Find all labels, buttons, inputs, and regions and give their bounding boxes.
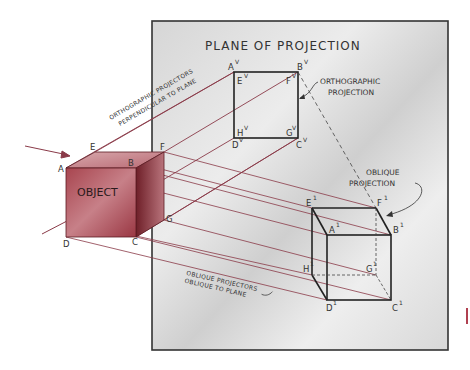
svg-text:F: F: [160, 142, 165, 152]
edge-mark: [466, 308, 468, 324]
svg-text:PROJECTION: PROJECTION: [349, 179, 395, 188]
svg-text:B: B: [128, 158, 134, 168]
svg-text:A: A: [329, 225, 335, 235]
svg-text:G: G: [166, 214, 173, 224]
svg-text:B: B: [297, 62, 303, 72]
plane-title: PLANE OF PROJECTION: [205, 39, 361, 53]
svg-text:E: E: [237, 76, 242, 86]
svg-text:F: F: [286, 76, 291, 86]
object-cube: OBJECT: [66, 152, 164, 237]
svg-text:1: 1: [313, 194, 317, 201]
svg-text:B: B: [393, 225, 399, 235]
svg-text:1: 1: [336, 221, 340, 228]
svg-text:E: E: [306, 198, 311, 208]
svg-text:ORTHOGRAPHIC: ORTHOGRAPHIC: [320, 77, 380, 86]
svg-text:1: 1: [400, 221, 404, 228]
object-label: OBJECT: [77, 186, 118, 199]
svg-text:1: 1: [373, 260, 377, 267]
svg-text:A: A: [228, 62, 234, 72]
svg-text:C: C: [132, 237, 138, 247]
svg-text:1: 1: [399, 299, 403, 306]
svg-text:1: 1: [310, 260, 314, 267]
arrow-head-icon: [61, 151, 70, 158]
svg-text:G: G: [366, 264, 373, 274]
svg-text:D: D: [326, 303, 333, 313]
svg-text:E: E: [90, 142, 95, 152]
svg-text:PROJECTION: PROJECTION: [328, 88, 374, 97]
svg-text:C: C: [392, 303, 398, 313]
svg-text:F: F: [377, 198, 382, 208]
svg-text:H: H: [303, 264, 309, 274]
svg-text:OBLIQUE: OBLIQUE: [366, 168, 400, 177]
svg-text:D: D: [63, 239, 70, 249]
svg-text:C: C: [296, 140, 302, 150]
svg-text:1: 1: [333, 299, 337, 306]
svg-text:1: 1: [384, 194, 388, 201]
svg-text:D: D: [232, 140, 239, 150]
projection-diagram: PLANE OF PROJECTION OBJECT A B: [0, 0, 470, 370]
svg-text:A: A: [58, 164, 64, 174]
